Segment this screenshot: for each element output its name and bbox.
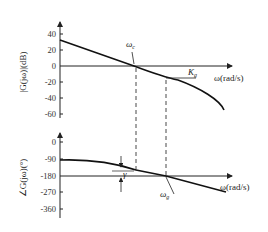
mag-x-label: ω(rad/s) — [214, 73, 243, 83]
mag-tick-20: 20 — [48, 45, 57, 55]
magnitude-curve — [60, 40, 224, 110]
phase-tick-m360: -360 — [40, 204, 56, 214]
magnitude-plot: 40 20 0 -20 -40 -60 |G(jω)|(dB) ωc Kg ω(… — [18, 22, 243, 119]
mag-tick-m60: -60 — [45, 109, 56, 119]
phase-x-label: ω(rad/s) — [220, 182, 249, 192]
bode-diagram: 40 20 0 -20 -40 -60 |G(jω)|(dB) ωc Kg ω(… — [0, 0, 268, 232]
omega-g-label: ωg — [160, 189, 169, 200]
phase-tick-0: 0 — [52, 137, 56, 147]
omega-c-label: ωc — [126, 39, 135, 50]
mag-tick-m20: -20 — [45, 77, 56, 87]
gamma-label: γ — [123, 169, 127, 179]
mag-tick-0: 0 — [52, 61, 56, 71]
phase-tick-m180: -180 — [40, 171, 56, 181]
phase-tick-m90: -90 — [45, 154, 56, 164]
phase-y-label: ∠G(jω)(°) — [18, 159, 28, 198]
kg-label: Kg — [187, 67, 197, 78]
phase-tick-m270: -270 — [40, 187, 56, 197]
phase-plot: 0 -90 -180 -270 -360 ∠G(jω)(°) γ ωg ω(ra… — [18, 133, 249, 218]
mag-tick-40: 40 — [48, 29, 57, 39]
mag-y-label: |G(jω)|(dB) — [18, 51, 28, 92]
mag-tick-m40: -40 — [45, 93, 56, 103]
